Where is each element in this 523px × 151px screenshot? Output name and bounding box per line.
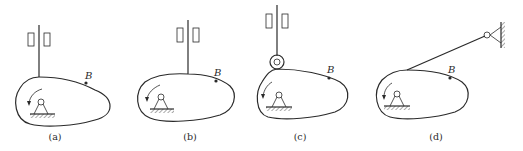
rotation-arrow-icon	[263, 82, 272, 96]
cam-profile	[138, 74, 235, 122]
caption-d: (d)	[429, 131, 443, 142]
point-b-marker	[448, 76, 451, 79]
point-b-label: B	[326, 64, 334, 75]
point-b-label: B	[213, 67, 221, 78]
fixed-pivot	[266, 92, 292, 111]
ground-pivot	[484, 22, 505, 48]
panel-b: B (b)	[138, 20, 235, 142]
arrowhead-icon	[145, 97, 149, 102]
cam-profile	[257, 69, 347, 119]
rotation-arrow-icon	[29, 89, 42, 103]
fixed-pivot	[30, 99, 55, 118]
follower-arm	[407, 36, 485, 70]
point-b-label: B	[84, 70, 92, 81]
panel-d: B (d)	[376, 22, 505, 142]
panel-a: B (a)	[16, 25, 110, 142]
arrowhead-icon	[261, 94, 265, 99]
fixed-pivot	[150, 94, 174, 113]
roller	[270, 55, 284, 69]
caption-c: (c)	[294, 131, 307, 142]
rotation-arrow-icon	[384, 83, 392, 97]
point-b-marker	[327, 76, 330, 79]
caption-b: (b)	[183, 131, 197, 142]
panel-c: B (c)	[257, 5, 347, 142]
fixed-pivot	[384, 91, 410, 110]
cam-mechanisms-figure: B (a) B (b)	[0, 0, 523, 151]
cam-profile	[376, 70, 468, 119]
arrowhead-icon	[382, 95, 386, 100]
point-b-label: B	[447, 64, 455, 75]
point-b-marker	[84, 81, 87, 84]
caption-a: (a)	[48, 131, 61, 142]
arrowhead-icon	[27, 101, 31, 106]
point-b-marker	[214, 79, 217, 82]
